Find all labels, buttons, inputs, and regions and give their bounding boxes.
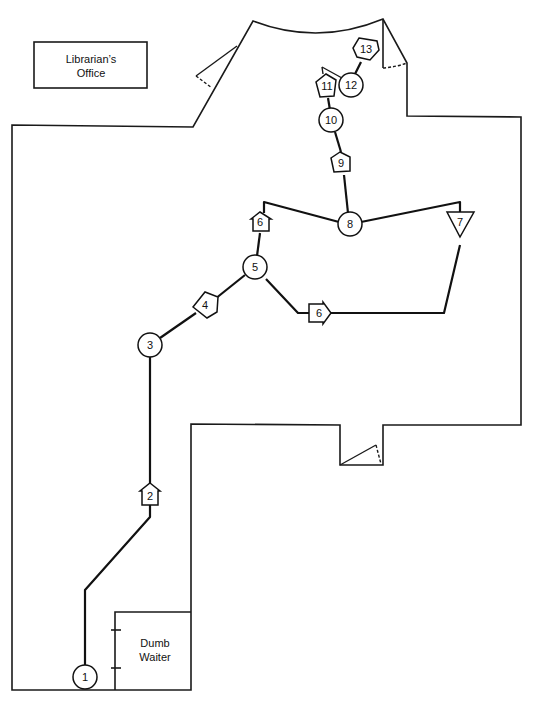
- node-1[interactable]: 1: [73, 665, 97, 689]
- node-2[interactable]: 2: [140, 483, 160, 505]
- door-upper-left: [196, 46, 237, 88]
- node-5[interactable]: 5: [243, 255, 267, 279]
- node-13[interactable]: 13: [353, 38, 379, 60]
- svg-text:11: 11: [321, 80, 332, 92]
- svg-text:6: 6: [257, 216, 263, 228]
- node-3[interactable]: 3: [138, 333, 162, 357]
- node-7[interactable]: 7: [447, 212, 474, 237]
- svg-text:12: 12: [345, 79, 357, 91]
- svg-text:6: 6: [316, 307, 322, 319]
- node-8[interactable]: 8: [338, 212, 362, 236]
- route-lines: [85, 62, 460, 665]
- node-4[interactable]: 4: [193, 292, 218, 318]
- dumb-waiter-label-line2: Waiter: [139, 651, 171, 663]
- svg-text:1: 1: [82, 671, 88, 683]
- node-9[interactable]: 9: [331, 152, 350, 172]
- librarians-office-label-line2: Office: [77, 67, 106, 79]
- node-6-upper[interactable]: 6: [251, 212, 271, 231]
- node-12[interactable]: 12: [339, 73, 363, 97]
- svg-text:5: 5: [252, 261, 258, 273]
- svg-text:9: 9: [338, 157, 344, 169]
- dumb-waiter: Dumb Waiter: [111, 612, 191, 690]
- svg-text:10: 10: [325, 114, 337, 126]
- floor-plan: Librarian’s Office Dumb Waiter: [0, 0, 539, 706]
- svg-text:13: 13: [360, 43, 372, 55]
- svg-text:2: 2: [147, 490, 153, 502]
- svg-text:3: 3: [147, 339, 153, 351]
- svg-text:7: 7: [457, 216, 463, 228]
- svg-text:8: 8: [347, 218, 353, 230]
- node-11[interactable]: 11: [316, 67, 342, 97]
- svg-text:4: 4: [202, 299, 208, 311]
- librarians-office: Librarian’s Office: [34, 42, 147, 88]
- node-6-lower[interactable]: 6: [309, 302, 331, 324]
- node-10[interactable]: 10: [319, 108, 343, 132]
- dumb-waiter-label-line1: Dumb: [140, 637, 169, 649]
- librarians-office-label-line1: Librarian’s: [66, 53, 117, 65]
- outer-wall: [12, 19, 521, 690]
- door-notch: [340, 445, 381, 465]
